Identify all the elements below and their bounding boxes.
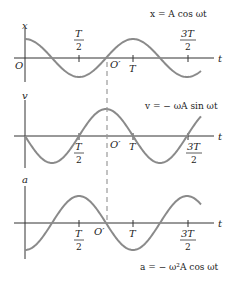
tick-t-half-num: T [75,228,83,239]
equation-acceleration: a = − ω²A cos ωt [140,262,219,272]
t-label-velocity: t [218,131,223,142]
shifted-origin-label-acceleration: O′ [94,226,105,237]
origin-label: O [15,60,23,71]
tick-t: T [129,141,137,152]
t-label-acceleration: t [218,218,223,229]
axis-label-x: x [22,20,28,31]
equation-velocity: v = − ωA sin ωt [144,101,218,111]
tick-t-half-den: 2 [76,242,82,252]
tick-3t-half-num: 3T [181,28,195,39]
t-label-position: t [218,53,223,64]
tick-3t-half-num: 3T [181,228,195,239]
tick-t-half-num: T [75,28,83,39]
tick-t-half-den: 2 [76,155,82,165]
tick-3t-half-num: 3T [187,141,201,152]
panel-position: x = A cos ωt x t O O′ T 2 T 3T 2 [14,9,223,82]
tick-t-half-num: T [75,141,83,152]
tick-3t-half-den: 2 [185,42,191,52]
panel-acceleration: a t O′ T 2 T 3T 2 a = − ω²A cos ωt [14,174,223,272]
shifted-origin-label-position: O′ [110,59,121,70]
tick-3t-half-den: 2 [191,155,197,165]
tick-t-half-den: 2 [76,42,82,52]
tick-t: T [129,63,137,74]
tick-3t-half-den: 2 [185,242,191,252]
equation-position: x = A cos ωt [150,9,207,19]
shifted-origin-label-velocity: O′ [110,139,121,150]
shm-diagram: x = A cos ωt x t O O′ T 2 T 3T 2 v v = −… [0,0,233,281]
panel-velocity: v v = − ωA sin ωt t O′ T 2 T 3T 2 [14,90,223,168]
axis-label-v: v [22,90,28,101]
axis-label-a: a [22,174,28,185]
tick-t: T [129,228,137,239]
